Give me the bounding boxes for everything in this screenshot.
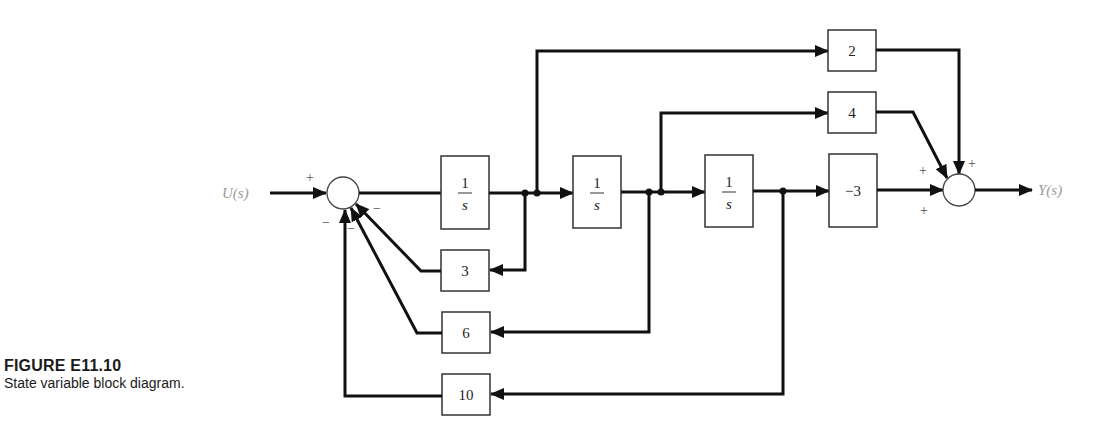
sum1-minus-fb10-sign: − (322, 215, 330, 230)
wire-to-feedback-3 (490, 193, 525, 270)
int2-denominator: s (594, 197, 600, 213)
figure-description: State variable block diagram. (4, 375, 204, 392)
feedback-3-label: 3 (461, 263, 469, 279)
sum1-minus-fb3-sign: − (373, 201, 381, 216)
output-signal-label: Y(s) (1038, 182, 1062, 199)
int3-denominator: s (726, 196, 732, 212)
wire-gain-4-to-sum2 (876, 112, 947, 178)
int2-numerator: 1 (593, 175, 601, 191)
int1-denominator: s (462, 197, 468, 213)
sum1-minus-fb6-sign: − (347, 221, 355, 236)
summing-junction-output (943, 174, 975, 206)
sum1-plus-sign: + (306, 170, 314, 185)
feedback-6-label: 6 (462, 325, 470, 341)
sum2-plus-from2-sign: + (968, 156, 976, 171)
wire-feedback-10-to-sum1 (345, 210, 442, 396)
wire-to-feedback-6 (491, 192, 649, 332)
gain-4-label: 4 (848, 105, 856, 121)
integrator-block-3 (705, 155, 753, 227)
figure-caption: FIGURE E11.10 State variable block diagr… (4, 357, 204, 392)
sum2-plus-from4-sign: + (919, 163, 927, 178)
gain-2-label: 2 (848, 43, 856, 59)
int3-numerator: 1 (725, 174, 733, 190)
int1-numerator: 1 (461, 175, 469, 191)
summing-junction-input (327, 177, 359, 209)
feedback-10-label: 10 (459, 387, 474, 403)
sum2-plus-from-neg3-sign: + (920, 203, 928, 218)
wire-feedback-3-to-sum1 (356, 204, 441, 271)
input-signal-label: U(s) (222, 185, 249, 202)
gain-neg3-label: −3 (845, 183, 861, 199)
figure-title: FIGURE E11.10 (4, 357, 204, 375)
integrator-block-2 (573, 156, 621, 228)
